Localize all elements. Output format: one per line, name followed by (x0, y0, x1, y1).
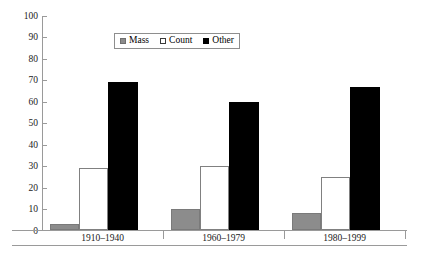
legend-entry-count: Count (160, 35, 192, 46)
legend: Mass Count Other (114, 33, 240, 49)
y-axis-label: 50 (4, 118, 38, 128)
legend-entry-mass: Mass (120, 35, 149, 46)
legend-entry-other: Other (203, 35, 234, 46)
bar-other-1980-1999 (350, 87, 380, 230)
y-axis-label: 60 (4, 97, 38, 107)
legend-label-mass: Mass (129, 35, 149, 46)
legend-swatch-mass-icon (120, 38, 126, 44)
y-axis-label: 100 (4, 11, 38, 21)
bar-mass-1910-1940 (50, 224, 79, 230)
legend-label-count: Count (169, 35, 192, 46)
x-axis-baseline (12, 245, 407, 246)
y-axis-label: 90 (4, 32, 38, 42)
y-axis-label: 0 (4, 226, 38, 236)
x-axis-category-label: 1980–1999 (284, 232, 405, 244)
bar-mass-1960-1979 (171, 209, 200, 230)
bar-other-1910-1940 (108, 82, 138, 230)
y-axis-label: 20 (4, 183, 38, 193)
legend-swatch-count-icon (160, 38, 166, 44)
bar-count-1910-1940 (79, 168, 108, 230)
x-axis-line (12, 230, 407, 231)
bar-mass-1980-1999 (292, 213, 321, 230)
x-axis-tick (405, 230, 406, 239)
y-axis-label: 10 (4, 204, 38, 214)
y-axis-label: 40 (4, 140, 38, 150)
bar-count-1980-1999 (321, 177, 350, 231)
bar-count-1960-1979 (200, 166, 229, 230)
y-axis-label: 30 (4, 161, 38, 171)
x-axis-category-label: 1960–1979 (163, 232, 284, 244)
bar-other-1960-1979 (229, 102, 259, 230)
legend-swatch-other-icon (203, 38, 209, 44)
legend-label-other: Other (212, 35, 234, 46)
y-axis-label: 70 (4, 75, 38, 85)
y-axis-label: 80 (4, 54, 38, 64)
bar-chart: 100 90 80 70 60 50 40 30 20 10 0 (0, 0, 422, 262)
x-axis-category-label: 1910–1940 (42, 232, 163, 244)
